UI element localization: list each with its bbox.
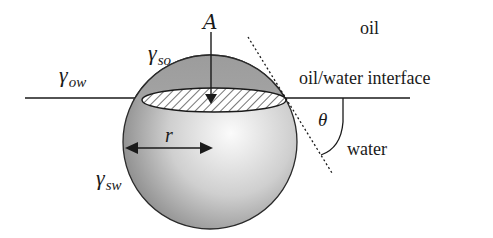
contact-area-hatch [142, 88, 286, 112]
diagram-canvas [0, 0, 493, 238]
angle-label: θ [318, 110, 327, 129]
water-label: water [347, 140, 387, 158]
gamma-ow-label: γow [59, 64, 86, 86]
area-label: A [203, 12, 217, 32]
oil-label: oil [360, 19, 379, 37]
gamma-sw-label: γsw [96, 167, 122, 189]
gamma-so-label: γso [148, 42, 171, 64]
radius-label: r [165, 125, 173, 145]
interface-label: oil/water interface [299, 69, 430, 87]
